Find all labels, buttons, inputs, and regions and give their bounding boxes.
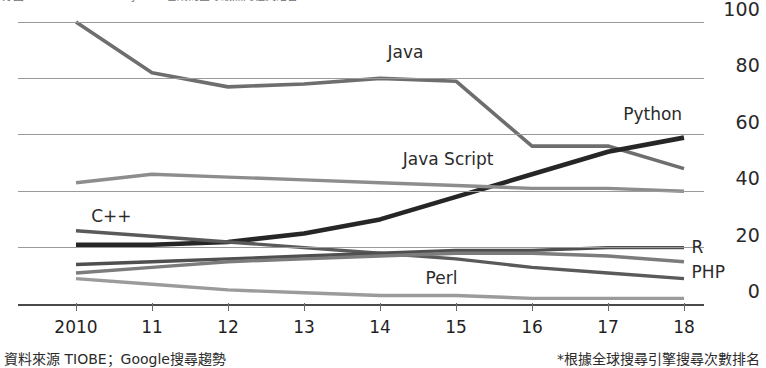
x-tick bbox=[228, 303, 229, 311]
clipped-header-strip: 分圖 Python 已成為全球最熱門程式語言 bbox=[0, 0, 766, 9]
clipped-header-title: Python 已成為全球最熱門程式語言 bbox=[124, 0, 298, 2]
x-axis: 20101112131415161718 bbox=[18, 303, 704, 343]
x-tick-label: 17 bbox=[597, 317, 619, 337]
x-tick bbox=[380, 303, 381, 311]
x-tick bbox=[532, 303, 533, 311]
x-tick-label: 11 bbox=[141, 317, 163, 337]
x-tick-label: 18 bbox=[673, 317, 695, 337]
series-label-c-: C++ bbox=[91, 208, 131, 225]
y-tick-label: 40 bbox=[735, 169, 760, 188]
footnote-method: *根據全球搜尋引擎搜尋次數排名 bbox=[557, 351, 760, 367]
series-line-java bbox=[76, 22, 684, 169]
series-label-python: Python bbox=[623, 106, 682, 123]
series-label-perl: Perl bbox=[426, 270, 458, 287]
plot-area bbox=[18, 20, 704, 306]
series-label-r: R bbox=[692, 239, 704, 256]
series-line-php bbox=[76, 253, 684, 273]
series-label-java: Java bbox=[388, 44, 424, 61]
clipped-header-left: 分圖 bbox=[2, 0, 24, 2]
x-tick-label: 12 bbox=[217, 317, 239, 337]
x-tick bbox=[456, 303, 457, 311]
footnote-source: 資料來源 TIOBE；Google搜尋趨勢 bbox=[4, 351, 226, 367]
x-tick-label: 13 bbox=[293, 317, 315, 337]
series-line-java-script bbox=[76, 174, 684, 191]
gridline bbox=[18, 191, 704, 192]
x-tick bbox=[608, 303, 609, 311]
gridline bbox=[18, 247, 704, 248]
x-tick-label: 16 bbox=[521, 317, 543, 337]
series-lines bbox=[18, 20, 704, 306]
series-line-perl bbox=[76, 279, 684, 299]
x-tick-label: 2010 bbox=[54, 317, 97, 337]
x-tick bbox=[304, 303, 305, 311]
x-tick bbox=[76, 303, 77, 311]
y-tick-label: 20 bbox=[735, 226, 760, 245]
x-tick bbox=[152, 303, 153, 311]
y-tick-label: 60 bbox=[735, 113, 760, 132]
series-label-php: PHP bbox=[692, 264, 725, 281]
y-tick-label: 100 bbox=[723, 0, 760, 19]
x-tick-label: 14 bbox=[369, 317, 391, 337]
x-tick-label: 15 bbox=[445, 317, 467, 337]
y-tick-label: 0 bbox=[748, 282, 760, 301]
gridline bbox=[18, 22, 704, 23]
y-tick-label: 80 bbox=[735, 56, 760, 75]
gridline bbox=[18, 134, 704, 135]
series-label-java-script: Java Script bbox=[403, 151, 494, 168]
chart-figure: 分圖 Python 已成為全球最熱門程式語言 020406080100 Java… bbox=[0, 0, 766, 368]
gridline bbox=[18, 78, 704, 79]
x-tick bbox=[684, 303, 685, 311]
